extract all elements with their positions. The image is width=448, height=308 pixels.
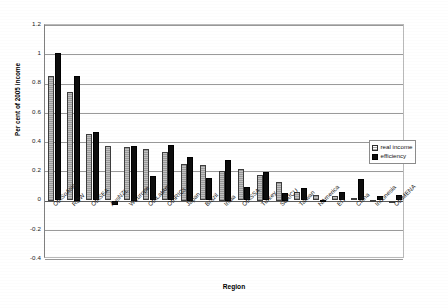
legend-label: real income	[381, 144, 413, 151]
bar-othsea-efficiency	[93, 132, 99, 200]
bar-othssa-real-income	[238, 169, 244, 200]
bar-row-efficiency	[74, 76, 80, 200]
bar-chart-figure: Per cent of 2005 income 1.210.80.60.40.2…	[0, 0, 448, 308]
legend-label: efficiency	[381, 153, 407, 160]
gridline-1_2	[45, 25, 403, 26]
gridline-0_6	[45, 113, 403, 114]
y-tick-label: 1.2	[1, 21, 41, 27]
legend-swatch-icon-efficiency	[372, 154, 378, 160]
y-tick-label: 0.6	[1, 109, 41, 115]
y-tick-label: 0	[1, 196, 41, 202]
plot-area	[44, 24, 404, 258]
gridline-1	[45, 54, 403, 55]
legend-item-real-income: real income	[372, 143, 412, 152]
bar-othsoasia-efficiency	[55, 53, 61, 201]
gridline-neg0_4	[45, 259, 403, 260]
x-axis-title: Region	[10, 283, 448, 290]
gridline-0_8	[45, 84, 403, 85]
gridline-neg0_2	[45, 230, 403, 231]
bar-soafcu-real-income	[276, 182, 282, 200]
y-tick-label: 0.4	[1, 138, 41, 144]
gridline-0_4	[45, 142, 403, 143]
y-tick-label: 1	[1, 50, 41, 56]
y-tick-label: 0.2	[1, 167, 41, 173]
legend-swatch-icon-real-income	[372, 145, 378, 151]
chart-legend: real incomeefficiency	[369, 140, 416, 164]
y-tick-label: 0.8	[1, 79, 41, 85]
bar-othsea-real-income	[86, 134, 92, 201]
legend-item-efficiency: efficiency	[372, 152, 412, 161]
y-tick-label: -0.4	[1, 255, 41, 261]
y-tick-label: -0.2	[1, 226, 41, 232]
bar-othsoasia-real-income	[48, 76, 54, 200]
